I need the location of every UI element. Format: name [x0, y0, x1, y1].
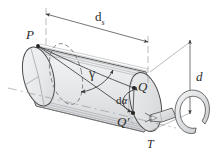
helix-angle-label: γ: [89, 67, 95, 81]
diameter-dimension-label: d: [196, 70, 203, 83]
diam-leader-top: [150, 42, 190, 72]
marker-q: [132, 86, 136, 90]
point-p-label: P: [26, 28, 34, 41]
lead-dimension-label: ds: [95, 10, 105, 27]
dalpha-label: dα: [116, 95, 127, 106]
marker-p: [36, 44, 40, 48]
diagram-svg: [0, 0, 216, 163]
torque-ring: [175, 90, 209, 133]
figure-canvas: ds d P Q Q′ dα γ T: [0, 0, 216, 163]
point-q-label: Q: [138, 80, 147, 93]
torque-label: T: [147, 138, 154, 150]
point-q-prime-label: Q′: [117, 115, 129, 128]
